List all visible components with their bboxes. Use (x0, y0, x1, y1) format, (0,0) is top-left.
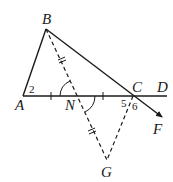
label-A: A (14, 97, 25, 113)
label-G: G (101, 164, 112, 180)
ray-BF (46, 29, 162, 117)
segment-CG (107, 96, 133, 160)
label-D: D (156, 79, 168, 95)
segment-AB (23, 29, 46, 96)
label-N: N (64, 97, 76, 113)
label-C: C (132, 79, 143, 95)
segment-BG (46, 29, 107, 160)
geometry-diagram: B A N C D F G 2 5 6 (0, 0, 173, 182)
label-angle-5: 5 (121, 97, 127, 109)
label-angle-6: 6 (132, 100, 138, 112)
label-F: F (152, 121, 163, 137)
arc-angle-CNG (85, 96, 95, 112)
label-B: B (42, 11, 51, 27)
arc-angle-BNA (60, 81, 70, 96)
label-angle-2: 2 (29, 83, 35, 95)
